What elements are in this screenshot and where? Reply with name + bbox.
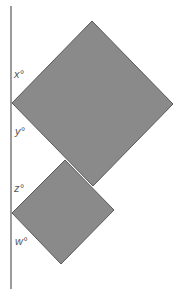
geometry-diagram: x° y° z° w° (0, 0, 183, 297)
large-square (12, 21, 173, 186)
angle-label-y: y° (14, 125, 26, 137)
angle-label-z: z° (13, 182, 25, 194)
angle-label-w: w° (15, 235, 28, 247)
angle-label-x: x° (13, 68, 25, 80)
